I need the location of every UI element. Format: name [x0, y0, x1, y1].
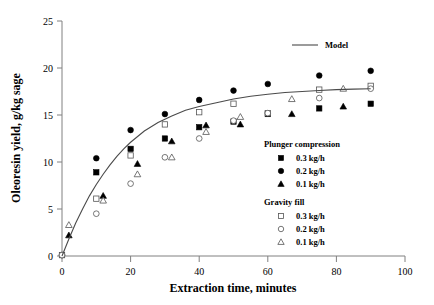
- chart-figure: 0510152025 020406080100 Extraction time,…: [0, 0, 434, 305]
- y-tick-label: 0: [48, 251, 53, 262]
- data-point-filled-circle: [368, 68, 374, 74]
- data-point-open-square: [128, 153, 133, 158]
- data-point-open-circle: [162, 154, 168, 160]
- data-point-open-circle: [265, 110, 271, 116]
- x-tick-label: 100: [398, 266, 413, 277]
- data-point-open-square: [197, 110, 202, 115]
- data-point-open-square: [162, 122, 167, 127]
- x-tick-label: 80: [331, 266, 341, 277]
- legend-marker-open-circle: [278, 226, 283, 231]
- data-point-open-circle: [196, 136, 202, 142]
- x-tick-label: 0: [60, 266, 65, 277]
- data-point-open-square: [317, 87, 322, 92]
- data-point-open-circle: [128, 181, 134, 187]
- legend-group-heading: Gravity fill: [264, 197, 305, 207]
- y-tick-label: 5: [48, 204, 53, 215]
- chart-background: [0, 0, 434, 305]
- data-point-filled-circle: [316, 73, 322, 79]
- y-tick-label: 20: [43, 63, 53, 74]
- data-point-filled-square: [317, 106, 322, 111]
- legend-marker-filled-circle: [278, 168, 283, 173]
- y-axis-title: Oleoresin yield, g/kg sage: [9, 72, 23, 202]
- legend-entry-label: 0.1 kg/h: [296, 237, 325, 247]
- legend-group-heading: Plunger compression: [264, 139, 340, 149]
- data-point-filled-square: [128, 146, 133, 151]
- data-point-filled-circle: [231, 88, 237, 94]
- x-tick-label: 20: [126, 266, 136, 277]
- oleoresin-yield-scatter-plot: 0510152025 020406080100 Extraction time,…: [0, 0, 434, 305]
- data-point-filled-circle: [265, 81, 271, 87]
- y-tick-label: 25: [43, 16, 53, 27]
- data-point-filled-circle: [128, 127, 134, 133]
- legend-entry-label: 0.2 kg/h: [296, 166, 325, 176]
- data-point-open-square: [94, 196, 99, 201]
- data-point-filled-circle: [93, 155, 99, 161]
- legend-entry-label: 0.2 kg/h: [296, 224, 325, 234]
- x-axis-title: Extraction time, minutes: [170, 281, 297, 295]
- data-point-open-square: [231, 101, 236, 106]
- legend-entry-label: 0.3 kg/h: [296, 153, 325, 163]
- model-legend-label: Model: [325, 40, 349, 50]
- legend-entry-label: 0.1 kg/h: [296, 179, 325, 189]
- y-tick-label: 15: [43, 110, 53, 121]
- data-point-filled-square: [197, 125, 202, 130]
- legend-entry-label: 0.3 kg/h: [296, 211, 325, 221]
- data-point-filled-circle: [196, 97, 202, 103]
- legend-marker-open-square: [278, 213, 283, 218]
- data-point-filled-square: [368, 101, 373, 106]
- x-tick-label: 40: [194, 266, 204, 277]
- data-point-filled-square: [162, 136, 167, 141]
- data-point-open-circle: [316, 95, 322, 101]
- data-point-open-circle: [231, 118, 237, 124]
- data-point-open-circle: [93, 211, 99, 217]
- legend-marker-filled-square: [278, 155, 283, 160]
- data-point-filled-circle: [162, 111, 168, 117]
- x-tick-label: 60: [263, 266, 273, 277]
- y-tick-label: 10: [43, 157, 53, 168]
- data-point-filled-square: [94, 170, 99, 175]
